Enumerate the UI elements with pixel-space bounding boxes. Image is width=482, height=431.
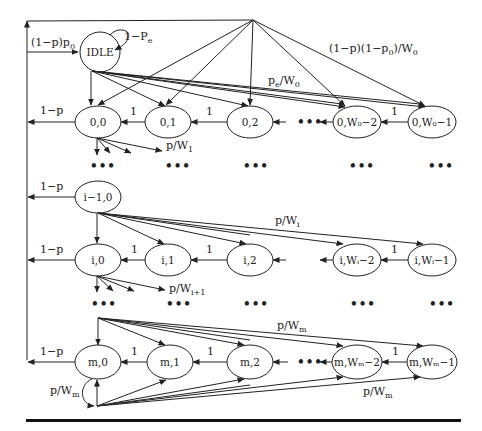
- markov-chain-diagram: IDLE 1−Pe (1−p)p0 (1−p)(1−p0)/W0 pe/W0 1…: [0, 0, 482, 431]
- svg-text:•••: •••: [90, 159, 116, 173]
- svg-text:0,1: 0,1: [160, 116, 177, 128]
- svg-text:1−p: 1−p: [40, 345, 63, 358]
- row-i-minus-1: 1−p i−1,0 p/Wi: [28, 180, 423, 244]
- svg-text:0,W₀−1: 0,W₀−1: [412, 116, 453, 128]
- svg-text:•••: •••: [243, 297, 269, 311]
- svg-text:•••: •••: [166, 297, 192, 311]
- svg-text:•••: •••: [165, 159, 191, 173]
- row-prev-fanout-label: p/Wi: [275, 214, 300, 229]
- pe-edge-label: pe/W0: [268, 74, 300, 89]
- row-0: 1−p 0,0 0,1 0,2 0,W₀−2 0,W₀−1 1 1 ••• 1 …: [28, 104, 456, 173]
- row0-fanout-label: p/W1: [166, 139, 193, 154]
- svg-text:m,1: m,1: [160, 356, 180, 368]
- svg-text:0,W₀−2: 0,W₀−2: [337, 116, 378, 128]
- svg-text:1: 1: [207, 345, 214, 358]
- svg-text:1−p: 1−p: [40, 243, 63, 256]
- idle-entry-label: (1−p)p0: [31, 36, 75, 51]
- svg-text:•••: •••: [429, 297, 455, 311]
- bottom-rule: [26, 419, 461, 422]
- svg-text:m,2: m,2: [240, 356, 260, 368]
- svg-text:i,Wᵢ−2: i,Wᵢ−2: [339, 254, 374, 266]
- svg-text:•••: •••: [350, 297, 376, 311]
- apex-edge-label: (1−p)(1−p0)/W0: [329, 42, 418, 57]
- svg-text:0,2: 0,2: [242, 116, 259, 128]
- svg-text:•••: •••: [91, 297, 117, 311]
- svg-text:1: 1: [391, 105, 398, 118]
- state-idle-label: IDLE: [86, 46, 113, 58]
- row-m-bottom-label: p/Wm: [363, 385, 393, 400]
- svg-text:m,0: m,0: [88, 356, 108, 368]
- svg-text:1: 1: [131, 243, 138, 256]
- svg-text:m,Wₘ−1: m,Wₘ−1: [409, 356, 455, 368]
- svg-text:•••: •••: [428, 159, 454, 173]
- row-i-fanout-label: p/Wi+1: [169, 282, 205, 297]
- svg-text:m,Wₘ−2: m,Wₘ−2: [334, 356, 380, 368]
- svg-text:•••: •••: [297, 115, 323, 129]
- svg-text:0,0: 0,0: [90, 116, 107, 128]
- svg-text:i−1,0: i−1,0: [84, 191, 113, 203]
- row0-back-label: 1−p: [40, 104, 63, 117]
- row-m-self-label: p/Wm: [50, 384, 80, 399]
- svg-text:•••: •••: [243, 159, 269, 173]
- svg-text:1: 1: [130, 105, 137, 118]
- state-idle: IDLE 1−Pe (1−p)p0: [31, 30, 153, 72]
- row-i: 1−p i,0 i,1 i,2 i,Wᵢ−2 i,Wᵢ−1 1 1 1 p/Wi…: [28, 243, 456, 311]
- svg-text:•••: •••: [297, 355, 323, 369]
- row-m: p/Wm 1−p m,0 m,1 m,2 m,Wₘ−2 m,Wₘ−1 1 1 •…: [28, 318, 457, 406]
- svg-text:1−p: 1−p: [40, 180, 63, 193]
- svg-text:1: 1: [392, 345, 399, 358]
- svg-text:•••: •••: [349, 159, 375, 173]
- svg-text:1: 1: [131, 345, 138, 358]
- idle-edges: pe/W0: [91, 71, 425, 107]
- svg-text:1: 1: [206, 105, 213, 118]
- svg-text:i,Wᵢ−1: i,Wᵢ−1: [414, 254, 449, 266]
- svg-text:1: 1: [206, 243, 213, 256]
- row-m-top-label: p/Wm: [277, 319, 307, 334]
- svg-text:i,1: i,1: [161, 254, 174, 266]
- idle-self-loop-label: 1−Pe: [124, 30, 153, 45]
- svg-text:i,2: i,2: [243, 254, 256, 266]
- svg-text:1: 1: [391, 243, 398, 256]
- svg-text:i,0: i,0: [91, 254, 104, 266]
